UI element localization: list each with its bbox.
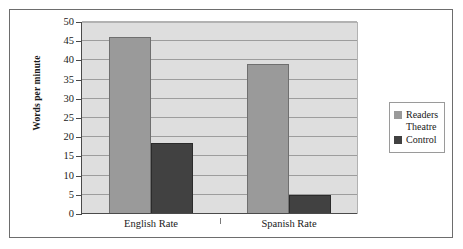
legend-item-readers-theatre: Readers Theatre xyxy=(394,109,438,132)
bar-spanish-rate-control xyxy=(289,195,331,214)
y-axis-tick xyxy=(76,156,81,157)
y-axis-tick xyxy=(76,195,81,196)
y-axis-tick-label: 20 xyxy=(14,132,74,143)
gridline xyxy=(82,21,357,22)
y-axis-tick xyxy=(76,118,81,119)
legend-item-control: Control xyxy=(394,134,437,146)
y-axis-tick-label: 25 xyxy=(14,113,74,124)
x-axis-label-spanish-rate: Spanish Rate xyxy=(220,218,358,229)
y-axis-tick xyxy=(76,80,81,81)
y-axis-tick-label: 30 xyxy=(14,94,74,105)
legend-swatch-icon xyxy=(394,111,402,119)
y-axis-tick-label: 40 xyxy=(14,55,74,66)
legend-label: Control xyxy=(406,134,437,146)
legend-swatch-icon xyxy=(394,136,402,144)
x-axis-separator xyxy=(220,218,221,224)
y-axis-tick-label: 0 xyxy=(14,209,74,220)
bar-spanish-rate-readers-theatre xyxy=(247,64,289,214)
y-axis-tick-label: 35 xyxy=(14,75,74,86)
legend-label: Readers Theatre xyxy=(406,109,438,132)
chart-figure: Words per minute 05101520253035404550 En… xyxy=(9,9,453,238)
y-axis-tick xyxy=(76,176,81,177)
y-axis-tick xyxy=(76,214,81,215)
plot-area xyxy=(82,22,358,214)
y-axis-tick-label: 5 xyxy=(14,190,74,201)
x-axis-label-english-rate: English Rate xyxy=(82,218,220,229)
y-axis-tick xyxy=(76,99,81,100)
y-axis-tick-label: 15 xyxy=(14,151,74,162)
y-axis-tick-label: 45 xyxy=(14,36,74,47)
y-axis-tick xyxy=(76,137,81,138)
y-axis-tick xyxy=(76,41,81,42)
bar-english-rate-control xyxy=(151,143,193,214)
bar-english-rate-readers-theatre xyxy=(109,37,151,214)
y-axis-tick-label: 50 xyxy=(14,17,74,28)
x-axis-labels: English RateSpanish Rate xyxy=(82,218,358,236)
y-axis-tick xyxy=(76,22,81,23)
chart-legend: Readers TheatreControl xyxy=(389,102,445,153)
y-axis-tick xyxy=(76,60,81,61)
y-axis-tick-label: 10 xyxy=(14,171,74,182)
